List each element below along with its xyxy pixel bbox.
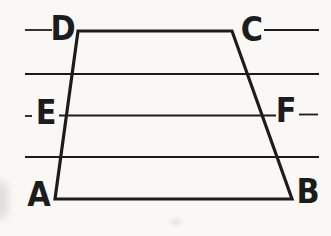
midpoint-label-e: E xyxy=(36,96,57,129)
geometry-figure: D C E F A B xyxy=(0,0,331,236)
vertex-label-c: C xyxy=(241,13,263,46)
vertex-label-d: D xyxy=(50,12,75,45)
vertex-label-b: B xyxy=(296,175,319,208)
vertex-label-a: A xyxy=(27,178,51,211)
midpoint-label-f: F xyxy=(276,94,297,127)
